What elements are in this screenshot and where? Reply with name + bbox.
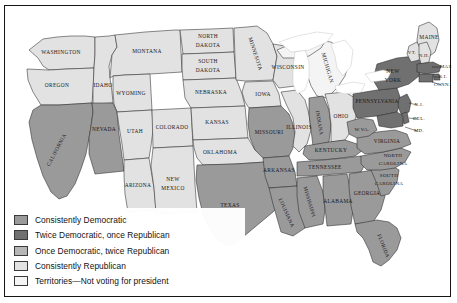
- label-north-carolina-2: CAROLINA: [379, 161, 408, 166]
- label-north-dakota-2: DAKOTA: [196, 42, 220, 48]
- label-new-jersey: N.J.: [414, 102, 423, 107]
- label-north-carolina-1: NORTH: [384, 153, 403, 158]
- map-legend: Consistently Democratic Twice Democratic…: [9, 208, 245, 292]
- label-new-mexico-2: MEXICO: [161, 185, 184, 191]
- state-florida[interactable]: [355, 220, 401, 266]
- legend-swatch-consistently-democratic: [14, 215, 28, 225]
- label-delaware: DEL.: [413, 116, 425, 121]
- label-wyoming: WYOMING: [116, 90, 146, 96]
- label-pennsylvania: PENNSYLVANIA: [355, 98, 398, 104]
- legend-item-once-democratic-twice-republican[interactable]: Once Democratic, twice Republican: [9, 243, 245, 258]
- label-new-york-2: YORK: [385, 77, 402, 83]
- legend-swatch-territories: [14, 276, 28, 286]
- label-colorado: COLORADO: [156, 124, 189, 130]
- label-north-dakota-1: NORTH: [198, 33, 218, 39]
- label-oklahoma: OKLAHOMA: [203, 149, 237, 155]
- legend-swatch-twice-democratic-once-republican: [14, 230, 28, 240]
- label-kentucky: KENTUCKY: [315, 147, 347, 153]
- label-vermont: VT.: [408, 50, 416, 55]
- label-west-virginia: W.VA.: [354, 127, 369, 132]
- label-south-carolina-1: SOUTH: [380, 173, 398, 178]
- label-new-york-1: NEW: [386, 68, 400, 74]
- label-south-dakota-1: SOUTH: [198, 58, 218, 64]
- label-massachusetts: MASS.: [440, 64, 452, 69]
- label-georgia: GEORGIA: [354, 190, 381, 196]
- legend-label-twice-democratic-once-republican: Twice Democratic, once Republican: [35, 230, 170, 240]
- label-iowa: IOWA: [255, 91, 270, 97]
- legend-item-twice-democratic-once-republican[interactable]: Twice Democratic, once Republican: [9, 227, 245, 242]
- label-new-hampshire: N.H.: [419, 53, 430, 58]
- legend-item-territories[interactable]: Territories—Not voting for president: [9, 274, 245, 289]
- map-frame: WASHINGTON OREGON IDAHO MONTANA WYOMING …: [4, 5, 451, 297]
- label-arizona: ARIZONA: [125, 182, 152, 188]
- label-new-mexico-1: NEW: [166, 176, 180, 182]
- label-illinois: ILLINOIS: [286, 124, 312, 130]
- map-figure: WASHINGTON OREGON IDAHO MONTANA WYOMING …: [0, 0, 457, 303]
- state-north-dakota[interactable]: [180, 28, 234, 54]
- label-montana: MONTANA: [132, 48, 162, 54]
- label-maryland: MD.: [414, 128, 424, 133]
- label-tennessee: TENNESSEE: [308, 164, 342, 170]
- label-oregon: OREGON: [45, 82, 70, 88]
- label-kansas: KANSAS: [205, 119, 229, 125]
- label-arkansas: ARKANSAS: [263, 167, 295, 173]
- state-california[interactable]: [29, 103, 93, 199]
- legend-label-consistently-democratic: Consistently Democratic: [35, 215, 126, 225]
- label-rhode-island: R.I.: [439, 74, 448, 79]
- label-utah: UTAH: [127, 128, 143, 134]
- label-nevada: NEVADA: [92, 126, 116, 132]
- label-alabama: ALABAMA: [323, 198, 353, 204]
- lake-michigan: [293, 50, 309, 94]
- label-south-carolina-2: CAROLINA: [375, 181, 404, 186]
- label-maine: MAINE: [419, 34, 439, 40]
- legend-item-consistently-republican[interactable]: Consistently Republican: [9, 258, 245, 273]
- legend-label-once-democratic-twice-republican: Once Democratic, twice Republican: [35, 246, 169, 256]
- label-connecticut: CONN.: [434, 82, 451, 87]
- state-massachusetts[interactable]: [417, 62, 441, 74]
- state-connecticut[interactable]: [419, 74, 433, 82]
- label-wisconsin: WISCONSIN: [271, 64, 304, 70]
- label-south-dakota-2: DAKOTA: [196, 67, 220, 73]
- label-virginia: VIRGINIA: [374, 138, 400, 144]
- label-missouri: MISSOURI: [255, 129, 284, 135]
- state-utah[interactable]: [117, 110, 153, 160]
- label-idaho: IDAHO: [93, 82, 112, 88]
- label-washington: WASHINGTON: [41, 49, 80, 55]
- label-ohio: OHIO: [334, 113, 349, 119]
- legend-label-territories: Territories—Not voting for president: [35, 276, 169, 286]
- legend-label-consistently-republican: Consistently Republican: [35, 261, 126, 271]
- legend-swatch-consistently-republican: [14, 261, 28, 271]
- label-nebraska: NEBRASKA: [195, 89, 227, 95]
- legend-item-consistently-democratic[interactable]: Consistently Democratic: [9, 212, 245, 227]
- state-south-dakota[interactable]: [182, 52, 236, 80]
- legend-swatch-once-democratic-twice-republican: [14, 246, 28, 256]
